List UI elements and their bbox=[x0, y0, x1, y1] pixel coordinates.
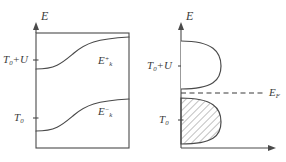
fermi-level-label: EF bbox=[269, 87, 280, 100]
lower-band-label-sub: k bbox=[109, 111, 112, 118]
lower-band-curve bbox=[36, 99, 129, 131]
tick-label-t0: T0 bbox=[14, 112, 24, 125]
upper-band-label-sub: k bbox=[109, 60, 112, 67]
fermi-level-label-main: E bbox=[269, 86, 276, 98]
tick-label-t0-plus-u-rest: +U bbox=[13, 53, 28, 65]
upper-band-curve bbox=[36, 37, 129, 69]
dos-axis-arrowhead bbox=[268, 145, 276, 151]
figure-root: E T0+U T0 E+k E−k bbox=[0, 0, 286, 162]
lower-band-label-main: E bbox=[98, 105, 105, 117]
band-dispersion-graphic bbox=[0, 0, 143, 162]
lower-lobe-filled bbox=[181, 98, 221, 144]
lower-band-label: E−k bbox=[98, 106, 112, 119]
energy-axis-arrowhead bbox=[33, 22, 39, 30]
tick-label-t0: T0 bbox=[159, 114, 169, 127]
fermi-level-label-sub: F bbox=[276, 92, 280, 99]
density-of-states-graphic bbox=[143, 0, 286, 162]
upper-band-label: E+k bbox=[98, 55, 112, 68]
tick-label-t0-plus-u-rest: +U bbox=[157, 59, 172, 71]
tick-label-t0-sub: 0 bbox=[20, 117, 23, 124]
tick-label-t0-plus-u: T0+U bbox=[3, 54, 28, 67]
upper-band-label-main: E bbox=[98, 54, 105, 66]
panel-density-of-states: E T0+U T0 EF bbox=[143, 0, 286, 162]
energy-axis-label: E bbox=[41, 10, 48, 22]
upper-lobe bbox=[181, 41, 221, 89]
tick-label-t0-sub: 0 bbox=[165, 119, 168, 126]
panel-frame bbox=[36, 33, 129, 148]
panel-band-dispersion: E T0+U T0 E+k E−k bbox=[0, 0, 143, 162]
energy-axis-arrowhead bbox=[178, 22, 184, 30]
energy-axis-label: E bbox=[186, 10, 193, 22]
tick-label-t0-plus-u: T0+U bbox=[147, 60, 172, 73]
